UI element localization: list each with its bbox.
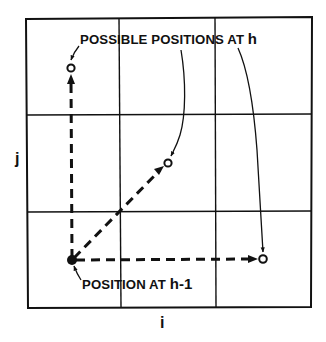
- leader-to-right: [238, 48, 263, 252]
- path-right: [76, 259, 253, 260]
- label-possible-positions: POSSIBLE POSITIONS AT h: [80, 30, 257, 47]
- gridline-horizontal-2: [27, 211, 311, 212]
- leader-to-origin: [74, 266, 81, 280]
- label-possible-positions-text: POSSIBLE POSITIONS AT: [80, 32, 248, 47]
- path-diagonal: [74, 170, 160, 258]
- label-current-position-text: POSITION AT: [82, 277, 170, 292]
- dynamic-programming-step-diagram: POSSIBLE POSITIONS AT h POSITION AT h-1 …: [0, 0, 326, 342]
- arrowhead-right-icon: [248, 255, 258, 263]
- label-current-position-variable: h-1: [170, 275, 193, 292]
- leader-line-current: [74, 266, 81, 280]
- filled-dot-icon: [67, 255, 77, 265]
- open-circle-up-icon: [67, 64, 74, 71]
- leader-lines-possible: [71, 46, 263, 252]
- open-circle-right-icon: [259, 255, 267, 263]
- label-possible-positions-variable: h: [248, 30, 257, 47]
- open-circle-diagonal-icon: [164, 159, 171, 166]
- gridline-vertical-2: [215, 17, 216, 307]
- gridline-vertical-1: [119, 18, 121, 307]
- leader-to-diagonal: [171, 50, 185, 156]
- leader-to-up: [71, 46, 79, 60]
- axis-label-j: j: [14, 150, 19, 167]
- origin-point: [67, 255, 77, 265]
- arrowhead-diagonal-icon: [154, 166, 164, 175]
- axis-label-i: i: [160, 314, 164, 331]
- label-current-position: POSITION AT h-1: [82, 275, 192, 292]
- arrowhead-up-icon: [67, 74, 75, 84]
- path-up: [71, 78, 72, 258]
- gridline-horizontal-1: [26, 114, 312, 115]
